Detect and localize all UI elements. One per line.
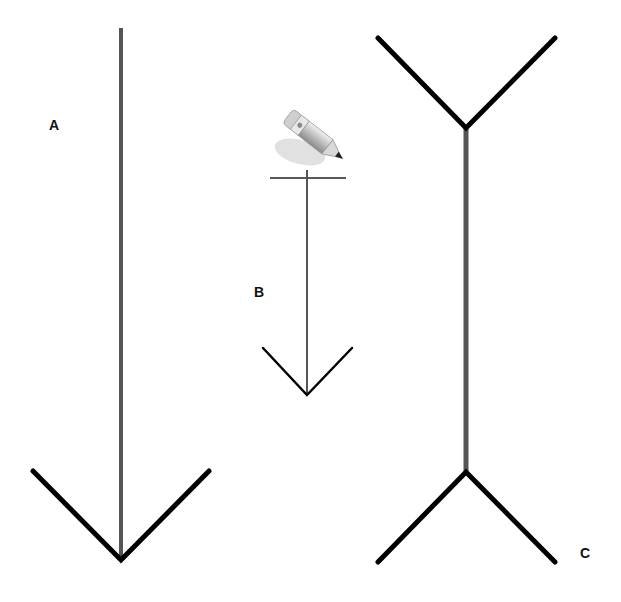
figure-c: [378, 38, 555, 562]
figure-c-top-fins: [378, 38, 555, 128]
diagram-canvas: [0, 0, 621, 602]
figure-b: [263, 170, 352, 395]
figure-a: [33, 28, 209, 560]
pencil-icon: [272, 109, 349, 170]
label-b: B: [254, 284, 264, 300]
label-c: C: [580, 545, 590, 561]
figure-c-bottom-fins: [378, 472, 555, 562]
label-a: A: [49, 117, 59, 133]
